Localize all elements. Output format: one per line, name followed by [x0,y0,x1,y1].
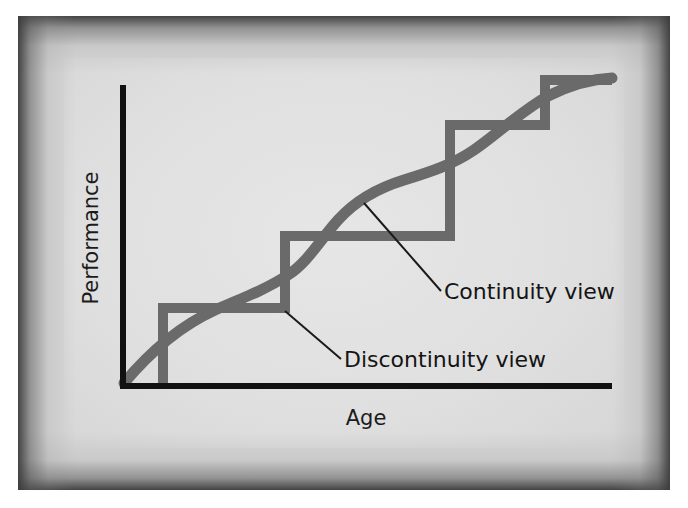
x-axis-label: Age [346,406,387,430]
discontinuity-leader-line [285,311,341,359]
y-axis-label: Performance [79,171,103,304]
scanned-figure-page: Continuity view Discontinuity view Perfo… [0,0,688,508]
discontinuity-step-series [163,80,612,386]
step-function-polyline [163,80,612,386]
discontinuity-view-label: Discontinuity view [344,347,546,372]
performance-age-figure: Continuity view Discontinuity view Perfo… [0,0,688,508]
continuity-leader-line [364,203,441,291]
continuity-view-label: Continuity view [444,279,615,304]
callout-leader-lines [285,203,441,359]
